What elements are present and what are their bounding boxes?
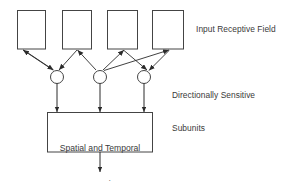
input-receptive-field-label: Input Receptive Field: [196, 24, 276, 35]
input-box-3: [108, 11, 138, 50]
directionally-sensitive-line1: Directionally Sensitive: [172, 90, 255, 101]
integration-label-line1: Spatial and Temporal: [47, 142, 153, 154]
diagram-canvas: Spatial and Temporal Integration Input R…: [0, 0, 304, 181]
directionally-sensitive-line2: Subunits: [172, 123, 255, 134]
subunit-circle-1: [51, 71, 64, 84]
edge-box2-to-subunit1: [59, 50, 77, 70]
edge-subunit2-to-box3: [103, 50, 124, 70]
input-box-1: [18, 11, 46, 50]
input-box-2: [63, 11, 92, 50]
directionally-sensitive-subunits-label: Directionally Sensitive Subunits: [172, 68, 255, 156]
integration-box-label: Spatial and Temporal Integration: [47, 118, 153, 181]
subunit-circle-2: [94, 71, 107, 84]
edge-subunit2-to-box2: [78, 50, 97, 70]
edge-box1-to-subunit1-down: [24, 50, 54, 70]
integration-label-line2: Integration: [47, 178, 153, 181]
input-box-4: [153, 11, 184, 50]
subunit-circle-3: [138, 71, 151, 84]
